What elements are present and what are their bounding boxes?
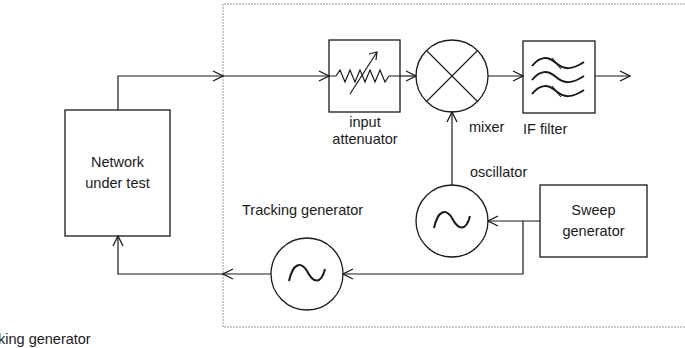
oscillator-block: [416, 185, 488, 257]
input-attenuator-label: input attenuator: [325, 114, 405, 148]
wire-sweep-to-tracking: [343, 221, 523, 274]
network-under-test-label: Network under test: [65, 110, 170, 236]
sine-wave-icon: [434, 212, 470, 228]
attenuator-label-line1: input: [325, 114, 405, 131]
input-attenuator-block: [329, 40, 400, 112]
if-filter-block: [523, 41, 595, 113]
sweep-generator-label: Sweep generator: [540, 185, 647, 257]
sweep-label-line1: Sweep: [571, 200, 615, 221]
mixer-block: [416, 40, 488, 112]
filter-waves-icon: [532, 58, 584, 97]
sweep-label-line2: generator: [562, 221, 624, 242]
wire-network-to-boundary: [118, 76, 223, 110]
instrument-boundary: [223, 4, 685, 327]
sine-wave-icon: [289, 265, 325, 281]
variable-resistor-icon: [329, 52, 400, 94]
caption-partial: king generator: [0, 331, 91, 348]
network-label-line1: Network: [91, 152, 144, 173]
oscillator-label: oscillator: [470, 164, 527, 181]
mixer-x-icon: [427, 51, 477, 101]
mixer-label: mixer: [469, 119, 504, 136]
network-label-line2: under test: [85, 173, 150, 194]
tracking-generator-block: [271, 238, 343, 310]
attenuator-label-line2: attenuator: [325, 131, 405, 148]
tracking-generator-label: Tracking generator: [242, 202, 363, 219]
wire-boundary-to-network: [118, 236, 223, 274]
if-filter-label: IF filter: [523, 121, 567, 138]
